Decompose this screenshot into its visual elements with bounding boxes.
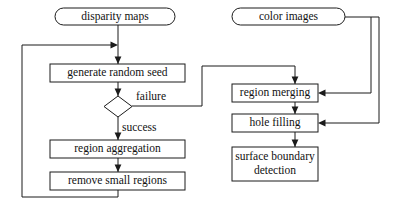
arrowhead-into-surface-boundary-detection	[292, 140, 299, 148]
arrowhead-into-generate-random-seed	[115, 57, 122, 65]
node-surface-boundary-detection[interactable]: surface boundary detection	[232, 147, 318, 181]
node-generate-random-seed[interactable]: generate random seed	[50, 64, 185, 82]
node-generate-random-seed-label: generate random seed	[67, 66, 168, 79]
node-hole-filling[interactable]: hole filling	[232, 114, 318, 132]
edge-label-failure: failure	[136, 90, 166, 102]
node-remove-small-regions-label: remove small regions	[68, 174, 168, 187]
flowchart-diagram: disparity maps color images generate ran…	[0, 0, 397, 213]
edge-label-success: success	[122, 121, 157, 133]
arrowhead-into-region-aggregation	[115, 133, 122, 141]
node-region-merging-label: region merging	[240, 86, 311, 99]
node-surface-boundary-detection-label-line2: detection	[254, 164, 296, 176]
node-hole-filling-label: hole filling	[250, 116, 301, 129]
arrowhead-feedback-into-trunk	[111, 42, 119, 49]
node-remove-small-regions[interactable]: remove small regions	[50, 172, 185, 190]
arrowhead-into-remove-small-regions	[115, 165, 122, 173]
edge-color-images-to-region-merging	[325, 17, 371, 93]
node-decision-diamond[interactable]	[104, 96, 132, 117]
node-color-images[interactable]: color images	[232, 8, 345, 25]
node-region-aggregation[interactable]: region aggregation	[50, 140, 185, 158]
flowchart-canvas: disparity maps color images generate ran…	[0, 0, 397, 213]
arrowhead-failure-into-region-merging	[292, 77, 299, 85]
arrowhead-into-hole-filling	[292, 107, 299, 115]
node-disparity-maps[interactable]: disparity maps	[55, 8, 175, 25]
node-color-images-label: color images	[259, 10, 319, 23]
node-region-aggregation-label: region aggregation	[74, 142, 161, 155]
node-surface-boundary-detection-label-line1: surface boundary	[235, 150, 315, 163]
arrowhead-into-decision	[115, 89, 122, 97]
arrowhead-color-into-hole-filling	[318, 120, 326, 127]
arrowhead-color-into-region-merging	[318, 90, 326, 97]
node-decision-shape	[104, 96, 132, 117]
node-region-merging[interactable]: region merging	[232, 84, 318, 102]
node-disparity-maps-label: disparity maps	[81, 10, 149, 23]
